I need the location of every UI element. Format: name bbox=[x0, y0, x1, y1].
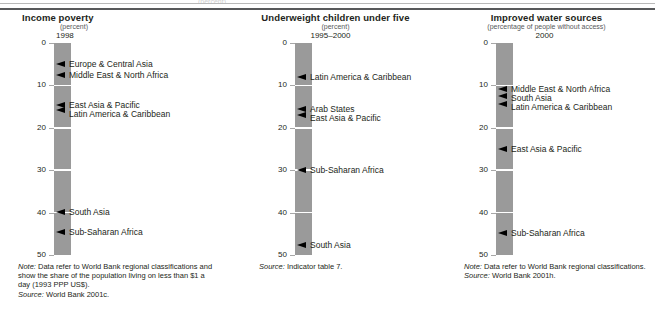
region-label: Latin America & Caribbean bbox=[310, 73, 411, 82]
plot-area: 01020304050Europe & Central AsiaMiddle E… bbox=[18, 43, 233, 261]
axis-tick-line bbox=[496, 127, 513, 129]
axis-tick-mark bbox=[491, 43, 496, 44]
region-pointer-icon bbox=[56, 229, 65, 235]
source-block: Source: World Bank 2001c. bbox=[18, 290, 218, 299]
plot-area: 01020304050Latin America & CaribbeanArab… bbox=[233, 43, 438, 261]
region-label: Sub-Saharan Africa bbox=[310, 166, 384, 175]
source-block: Source: Indicator table 7. bbox=[259, 262, 444, 271]
axis-tick-mark bbox=[290, 170, 295, 171]
region-label: South Asia bbox=[310, 241, 351, 250]
axis-tick-line bbox=[295, 127, 312, 129]
region-pointer-icon bbox=[56, 61, 65, 67]
region-pointer-icon bbox=[56, 72, 65, 78]
chart-period-label: 1998 bbox=[18, 31, 233, 40]
chart-panel-improved-water-sources: Improved water sources (percentage of pe… bbox=[438, 12, 655, 261]
source-label: Source: bbox=[464, 271, 490, 280]
axis-tick-label: 20 bbox=[263, 124, 287, 132]
axis-tick-label: 20 bbox=[22, 124, 46, 132]
axis-tick-mark bbox=[290, 213, 295, 214]
axis-tick-label: 0 bbox=[22, 39, 46, 47]
region-pointer-icon bbox=[297, 242, 306, 248]
axis-tick-label: 30 bbox=[464, 166, 488, 174]
region-label: Europe & Central Asia bbox=[69, 60, 153, 69]
axis-tick-label: 50 bbox=[22, 251, 46, 259]
axis-tick-line bbox=[54, 127, 71, 129]
axis-tick-label: 10 bbox=[263, 81, 287, 89]
axis-tick-label: 50 bbox=[263, 251, 287, 259]
axis-tick-label: 40 bbox=[464, 209, 488, 217]
axis-tick-label: 10 bbox=[464, 81, 488, 89]
axis-tick-mark bbox=[290, 255, 295, 256]
chart-notes: Note: Data refer to World Bank regional … bbox=[18, 262, 218, 299]
note-block: Note: Data refer to World Bank regional … bbox=[464, 262, 655, 271]
axis-tick-line bbox=[295, 212, 312, 214]
axis-tick-mark bbox=[49, 43, 54, 44]
axis-tick-label: 30 bbox=[22, 166, 46, 174]
region-label: Latin America & Caribbean bbox=[511, 103, 612, 112]
region-pointer-icon bbox=[297, 167, 306, 173]
axis-tick-mark bbox=[49, 213, 54, 214]
region-label: Middle East & North Africa bbox=[69, 71, 168, 80]
region-label: South Asia bbox=[69, 208, 110, 217]
header-rule-thick bbox=[0, 8, 655, 10]
axis-tick-mark bbox=[491, 128, 496, 129]
chart-unit-label: (percentage of people without access) bbox=[438, 23, 655, 31]
axis-tick-mark bbox=[49, 255, 54, 256]
axis-tick-line bbox=[295, 85, 312, 87]
axis-tick-line bbox=[54, 85, 71, 87]
chart-notes: Source: Indicator table 7. bbox=[259, 262, 444, 271]
note-block: Note: Data refer to World Bank regional … bbox=[18, 262, 218, 290]
chart-panel-income-poverty: Income poverty (percent) 1998 0102030405… bbox=[18, 12, 233, 261]
axis-tick-line bbox=[496, 212, 513, 214]
axis-tick-mark bbox=[491, 85, 496, 86]
chart-unit-label: (percent) bbox=[233, 23, 438, 31]
source-label: Source: bbox=[259, 262, 285, 271]
axis-tick-mark bbox=[491, 170, 496, 171]
axis-tick-label: 50 bbox=[464, 251, 488, 259]
axis-tick-label: 0 bbox=[464, 39, 488, 47]
axis-tick-mark bbox=[49, 128, 54, 129]
source-text: Indicator table 7. bbox=[285, 262, 343, 271]
axis-tick-label: 10 bbox=[22, 81, 46, 89]
axis-tick-label: 20 bbox=[464, 124, 488, 132]
axis-tick-mark bbox=[491, 213, 496, 214]
source-label: Source: bbox=[18, 290, 44, 299]
note-label: Note: bbox=[464, 262, 482, 271]
chart-title: Improved water sources bbox=[438, 12, 655, 23]
region-pointer-icon bbox=[498, 146, 507, 152]
source-block: Source: World Bank 2001h. bbox=[464, 271, 655, 280]
region-label: Latin America & Caribbean bbox=[69, 110, 170, 119]
note-text: Data refer to World Bank regional classi… bbox=[482, 262, 646, 271]
axis-tick-mark bbox=[290, 85, 295, 86]
region-pointer-icon bbox=[297, 112, 306, 118]
axis-tick-label: 30 bbox=[263, 166, 287, 174]
axis-tick-line bbox=[496, 169, 513, 171]
region-pointer-icon bbox=[56, 209, 65, 215]
axis-tick-label: 40 bbox=[22, 209, 46, 217]
source-text: World Bank 2001c. bbox=[44, 290, 109, 299]
region-pointer-icon bbox=[297, 74, 306, 80]
chart-panel-underweight-children: Underweight children under five (percent… bbox=[233, 12, 438, 261]
region-label: Sub-Saharan Africa bbox=[511, 229, 585, 238]
region-label: East Asia & Pacific bbox=[511, 145, 582, 154]
region-pointer-icon bbox=[56, 107, 65, 113]
axis-tick-label: 0 bbox=[263, 39, 287, 47]
chart-title: Income poverty bbox=[18, 12, 233, 23]
region-pointer-icon bbox=[498, 230, 507, 236]
chart-title: Underweight children under five bbox=[233, 12, 438, 23]
region-label: Sub-Saharan Africa bbox=[69, 228, 143, 237]
axis-tick-label: 40 bbox=[263, 209, 287, 217]
axis-tick-mark bbox=[290, 128, 295, 129]
axis-tick-mark bbox=[49, 170, 54, 171]
axis-tick-mark bbox=[49, 85, 54, 86]
figure-page: (percent) Income poverty (percent) 1998 … bbox=[0, 0, 655, 312]
axis-tick-line bbox=[54, 169, 71, 171]
axis-tick-mark bbox=[290, 43, 295, 44]
plot-area: 01020304050Middle East & North AfricaSou… bbox=[438, 43, 655, 261]
chart-unit-label: (percent) bbox=[18, 23, 233, 31]
header-rule-thin bbox=[0, 3, 655, 4]
note-label: Note: bbox=[18, 262, 36, 271]
axis-tick-mark bbox=[491, 255, 496, 256]
clipped-header-text: (percent) bbox=[198, 0, 318, 3]
region-pointer-icon bbox=[498, 101, 507, 107]
